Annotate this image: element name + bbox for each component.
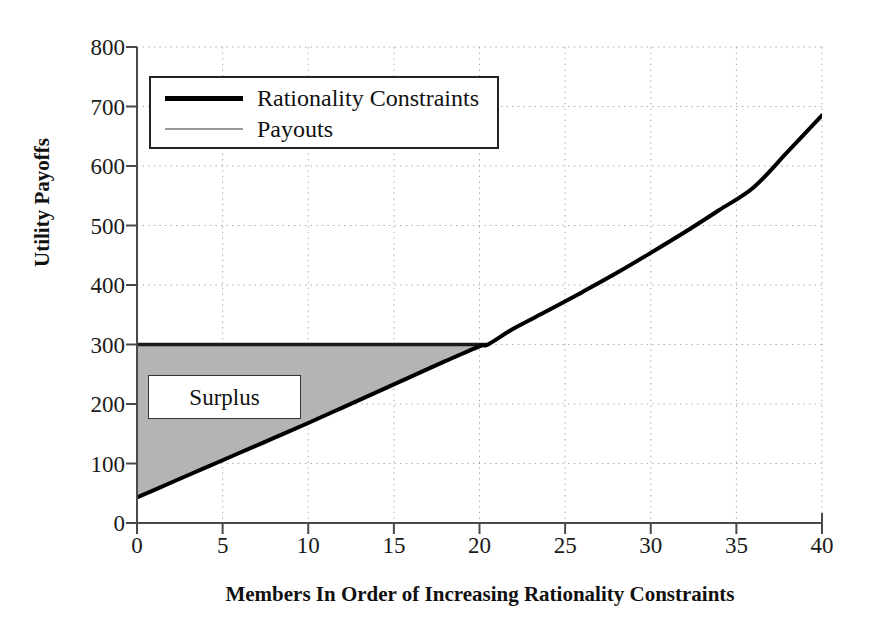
legend-label-rationality-constraints: Rationality Constraints: [257, 86, 479, 110]
x-tick-label: 30: [621, 534, 681, 557]
x-tick-label-group: 0510152025303540: [0, 534, 869, 570]
x-tick-label: 35: [706, 534, 766, 557]
y-tick-label: 100: [65, 452, 125, 475]
chart-figure: 0100200300400500600700800 05101520253035…: [0, 0, 869, 628]
y-tick-label: 700: [65, 95, 125, 118]
chart-legend: Rationality Constraints Payouts: [149, 76, 499, 149]
x-axis-title: Members In Order of Increasing Rationali…: [137, 582, 823, 607]
y-tick-label: 0: [65, 512, 125, 535]
y-axis-title: Utility Payoffs: [30, 103, 55, 303]
surplus-annotation-box: Surplus: [148, 375, 301, 419]
y-tick-label: 400: [65, 274, 125, 297]
legend-swatch-thick-black-line-icon: [165, 96, 243, 101]
x-tick-label: 5: [193, 534, 253, 557]
y-tick-label: 200: [65, 393, 125, 416]
y-tick-label: 800: [65, 36, 125, 59]
x-tick-label: 0: [107, 534, 167, 557]
x-tick-label: 25: [535, 534, 595, 557]
legend-label-payouts: Payouts: [257, 117, 333, 141]
x-tick-label: 10: [278, 534, 338, 557]
x-tick-label: 15: [364, 534, 424, 557]
x-tick-label: 20: [450, 534, 510, 557]
y-tick-label: 600: [65, 155, 125, 178]
legend-entry-rationality-constraints: Rationality Constraints: [151, 82, 497, 114]
y-axis-ticks: [126, 47, 137, 523]
x-tick-label: 40: [792, 534, 852, 557]
surplus-annotation-label: Surplus: [189, 386, 259, 409]
y-tick-label: 300: [65, 333, 125, 356]
legend-entry-payouts: Payouts: [151, 113, 497, 145]
y-tick-label: 500: [65, 214, 125, 237]
legend-swatch-thin-gray-line-icon: [165, 128, 243, 130]
